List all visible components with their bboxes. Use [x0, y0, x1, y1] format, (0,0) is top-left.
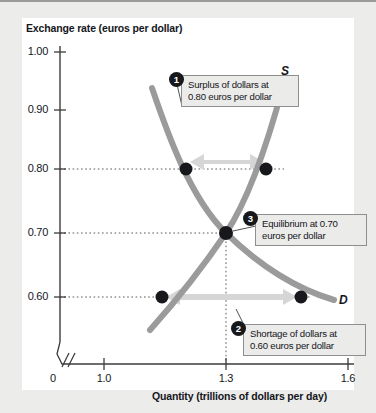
callout-surplus-line1: Surplus of dollars at: [188, 79, 293, 91]
callout-equilibrium: Equilibrium at 0.70 euros per dollar: [255, 214, 367, 246]
figure-container: Exchange rate (euros per dollar): [0, 0, 376, 413]
y-tick-label-2: 0.90: [8, 103, 48, 115]
surplus-arrow: [190, 154, 264, 170]
x-axis-title: Quantity (trillions of dollars per day): [152, 390, 327, 402]
axis-break-icon: [57, 342, 75, 367]
callout-equilibrium-line1: Equilibrium at 0.70: [262, 218, 361, 230]
y-tick-label-4: 0.70: [8, 226, 48, 238]
y-tick-label-1: 1.00: [8, 45, 48, 57]
x-origin-label: 0: [33, 372, 73, 384]
callout-shortage-line1: Shortage of dollars at: [250, 328, 360, 340]
x-tick-label-3: 1.6: [328, 372, 368, 384]
leader-callout-3: [233, 226, 256, 231]
point-demand-at-080: [180, 163, 193, 176]
callout-badge-1: 1: [169, 72, 184, 87]
y-tick-label-5: 0.60: [8, 290, 48, 302]
callout-shortage: Shortage of dollars at 0.60 euros per do…: [243, 324, 366, 356]
demand-curve: [152, 88, 334, 300]
callout-surplus: Surplus of dollars at 0.80 euros per dol…: [181, 75, 299, 107]
demand-curve-label: D: [339, 293, 348, 307]
callout-badge-2: 2: [231, 321, 246, 336]
callout-equilibrium-line2: euros per dollar: [262, 230, 361, 242]
x-tick-label-2: 1.3: [206, 372, 246, 384]
x-tick-label-1: 1.0: [84, 372, 124, 384]
callout-badge-3: 3: [243, 211, 258, 226]
point-supply-at-080: [260, 163, 273, 176]
point-demand-at-060: [295, 291, 308, 304]
y-tick-label-3: 0.80: [8, 162, 48, 174]
callout-shortage-line2: 0.60 euros per dollar: [250, 340, 360, 352]
callout-surplus-line2: 0.80 euros per dollar: [188, 91, 293, 103]
supply-curve: [150, 86, 283, 330]
point-equilibrium: [219, 226, 233, 240]
point-supply-at-060: [156, 291, 169, 304]
